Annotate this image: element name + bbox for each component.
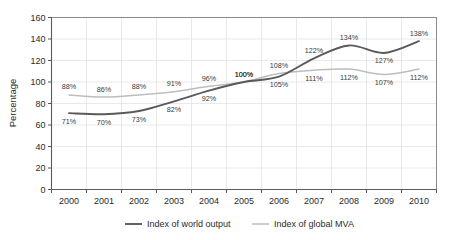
y-tick-label: 160 — [30, 13, 45, 23]
chart-figure: 020406080100120140160 200020012002200320… — [0, 0, 454, 240]
data-value-label: 112% — [410, 73, 428, 82]
chart-legend: Index of world outputIndex of global MVA — [125, 219, 354, 229]
data-value-label: 70% — [97, 118, 112, 127]
data-value-label: 88% — [62, 82, 77, 91]
x-tick-label: 2003 — [164, 196, 184, 206]
x-tick-label: 2008 — [339, 196, 359, 206]
x-tick-label: 2001 — [94, 196, 114, 206]
x-tick-label: 2007 — [304, 196, 324, 206]
data-value-label: 73% — [132, 115, 147, 124]
y-tick-label: 40 — [35, 142, 45, 152]
data-value-label: 91% — [167, 79, 182, 88]
data-value-label: 134% — [340, 33, 359, 42]
y-tick-label: 140 — [30, 34, 45, 44]
y-tick-label: 80 — [35, 99, 45, 109]
x-tick-label: 2006 — [269, 196, 289, 206]
x-tick-label: 2009 — [374, 196, 394, 206]
data-value-label: 100% — [235, 70, 254, 79]
y-tick-label: 60 — [35, 120, 45, 130]
data-value-label: 112% — [340, 73, 358, 82]
data-value-label: 108% — [270, 61, 289, 70]
data-value-label: 122% — [305, 46, 324, 55]
y-tick-label: 100 — [30, 77, 45, 87]
data-value-labels: 71%70%73%82%92%100%105%122%134%127%138%8… — [62, 29, 429, 127]
y-axis-ticks: 020406080100120140160 — [30, 13, 51, 195]
data-value-label: 111% — [305, 74, 323, 83]
y-tick-label: 0 — [40, 185, 45, 195]
y-tick-label: 20 — [35, 163, 45, 173]
data-value-label: 82% — [167, 105, 182, 114]
x-tick-label: 2000 — [59, 196, 79, 206]
data-value-label: 127% — [375, 56, 394, 65]
grid-lines — [52, 18, 437, 190]
y-tick-label: 120 — [30, 56, 45, 66]
legend-label: Index of global MVA — [274, 219, 354, 229]
data-value-label: 107% — [375, 78, 394, 87]
x-tick-label: 2004 — [199, 196, 219, 206]
data-value-label: 138% — [410, 29, 429, 38]
data-value-label: 71% — [62, 117, 77, 126]
x-tick-label: 2010 — [409, 196, 429, 206]
x-tick-label: 2002 — [129, 196, 149, 206]
data-value-label: 96% — [202, 74, 217, 83]
x-tick-label: 2005 — [234, 196, 254, 206]
line-chart: 020406080100120140160 200020012002200320… — [0, 0, 454, 240]
legend-label: Index of world output — [147, 219, 231, 229]
data-value-label: 105% — [270, 80, 289, 89]
data-value-label: 88% — [132, 82, 147, 91]
data-value-label: 92% — [202, 94, 217, 103]
data-value-label: 86% — [97, 85, 112, 94]
x-axis-ticks: 2000200120022003200420052006200720082009… — [52, 190, 437, 206]
y-axis-title: Percentage — [7, 79, 18, 128]
